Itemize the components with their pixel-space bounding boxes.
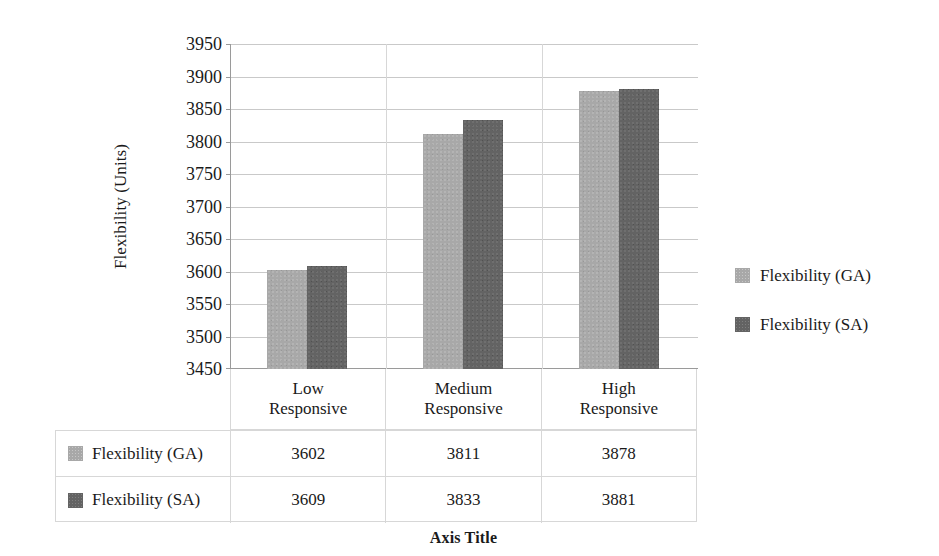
legend-item-sa[interactable]: Flexibility (SA) [735, 314, 935, 335]
table-row: Flexibility (GA) 3602 3811 3878 [56, 431, 696, 477]
y-tick-label: 3750 [160, 165, 222, 183]
y-tick-label: 3450 [160, 360, 222, 378]
x-axis-category-labels: Low Responsive Medium Responsive High Re… [230, 369, 697, 430]
table-cell: 3881 [542, 477, 696, 523]
plot-area [230, 44, 697, 369]
category-label-low: Low Responsive [231, 369, 386, 429]
bar-sa-medium[interactable] [463, 120, 503, 369]
category-line: High [602, 379, 636, 399]
y-tick-label: 3800 [160, 133, 222, 151]
category-label-medium: Medium Responsive [386, 369, 541, 429]
series-color-swatch-ga-icon [68, 446, 83, 461]
legend-label: Flexibility (SA) [760, 315, 868, 335]
series-name: Flexibility (SA) [92, 490, 200, 510]
category-line: Responsive [424, 399, 502, 419]
y-tick-label: 3500 [160, 328, 222, 346]
gridline [231, 44, 698, 45]
x-axis-title: Axis Title [230, 529, 697, 547]
chart-legend: Flexibility (GA) Flexibility (SA) [735, 265, 935, 335]
bar-ga-high[interactable] [579, 91, 619, 369]
bar-sa-low[interactable] [307, 266, 347, 369]
category-separator [542, 44, 543, 369]
y-tick-label: 3550 [160, 295, 222, 313]
category-label-high: High Responsive [542, 369, 696, 429]
bar-ga-low[interactable] [267, 270, 307, 369]
chart-container: Flexibility (Units) 3950 3900 3850 3800 … [0, 0, 939, 556]
y-tick-label: 3850 [160, 100, 222, 118]
series-name: Flexibility (GA) [92, 444, 203, 464]
y-axis-tick-labels: 3950 3900 3850 3800 3750 3700 3650 3600 … [160, 44, 222, 369]
table-row-label-sa: Flexibility (SA) [56, 477, 231, 523]
data-table: Flexibility (GA) 3602 3811 3878 Flexibil… [55, 430, 697, 522]
legend-swatch-sa-icon [735, 317, 750, 332]
y-tick-label: 3900 [160, 68, 222, 86]
legend-label: Flexibility (GA) [760, 266, 871, 286]
table-cell: 3602 [231, 431, 386, 476]
category-separator [386, 44, 387, 369]
table-cell: 3878 [542, 431, 696, 476]
table-row-label-ga: Flexibility (GA) [56, 431, 231, 476]
y-tick-label: 3950 [160, 35, 222, 53]
y-tick-label: 3650 [160, 230, 222, 248]
y-tick-label: 3600 [160, 263, 222, 281]
table-cell: 3833 [386, 477, 541, 523]
bar-ga-medium[interactable] [423, 134, 463, 369]
gridline [231, 77, 698, 78]
series-color-swatch-sa-icon [68, 493, 83, 508]
table-row: Flexibility (SA) 3609 3833 3881 [56, 477, 696, 523]
y-tick-label: 3700 [160, 198, 222, 216]
category-line: Responsive [269, 399, 347, 419]
table-cell: 3609 [231, 477, 386, 523]
table-cell: 3811 [386, 431, 541, 476]
legend-swatch-ga-icon [735, 268, 750, 283]
category-line: Medium [435, 379, 493, 399]
category-line: Responsive [580, 399, 658, 419]
bar-sa-high[interactable] [619, 89, 659, 369]
legend-item-ga[interactable]: Flexibility (GA) [735, 265, 935, 286]
category-line: Low [293, 379, 324, 399]
y-axis-title: Flexibility (Units) [103, 44, 139, 369]
